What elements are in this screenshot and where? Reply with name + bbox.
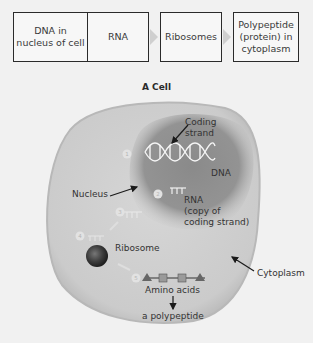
- label-nucleus: Nucleus: [72, 189, 108, 200]
- step-number-1: 1: [125, 151, 129, 157]
- label-coding-strand: Coding strand: [185, 117, 216, 139]
- label-line: coding strand): [184, 217, 249, 228]
- label-dna: DNA: [211, 168, 231, 179]
- step-number-4: 4: [78, 233, 82, 239]
- label-polypeptide: a polypeptide: [142, 311, 204, 322]
- step-number-3: 3: [118, 209, 122, 215]
- label-line: strand: [185, 128, 216, 139]
- label-rna: RNA (copy of coding strand): [184, 195, 249, 228]
- label-line: Coding: [185, 117, 216, 128]
- step-number-5: 5: [134, 275, 138, 281]
- label-line: (copy of: [184, 206, 249, 217]
- label-cytoplasm: Cytoplasm: [257, 268, 305, 279]
- label-ribosome: Ribosome: [115, 243, 159, 254]
- label-amino-acids: Amino acids: [145, 285, 200, 296]
- label-line: RNA: [184, 195, 249, 206]
- step-number-2: 2: [156, 191, 160, 197]
- ribosome-icon: [86, 245, 108, 267]
